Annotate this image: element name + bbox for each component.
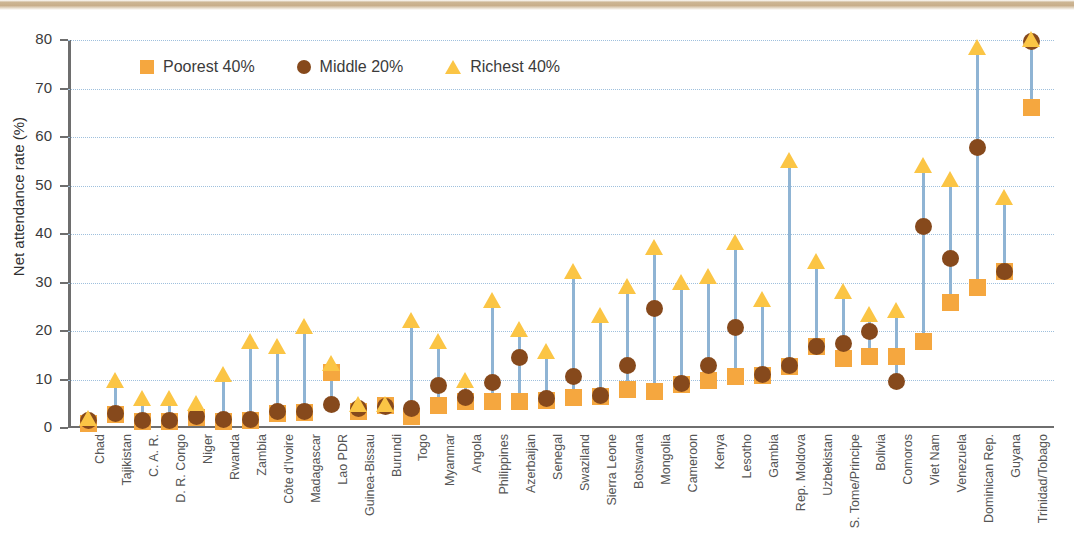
x-tick-label: Senegal xyxy=(551,434,565,480)
data-point-richest xyxy=(726,234,744,250)
x-tick-label: Lao PDR xyxy=(336,434,350,485)
range-connector-line xyxy=(815,261,818,347)
range-connector-line xyxy=(626,286,629,390)
x-tick-label: Swaziland xyxy=(578,434,592,491)
data-point-richest xyxy=(187,395,205,411)
x-tick-label: S. Tome/Principe xyxy=(848,434,862,528)
data-point-poorest xyxy=(835,350,852,367)
y-tick-label: 0 xyxy=(8,418,52,435)
data-point-middle xyxy=(808,338,825,355)
data-point-richest xyxy=(106,372,124,388)
x-tick-label: Comoros xyxy=(901,434,915,485)
y-tick-mark xyxy=(60,379,68,381)
data-point-richest xyxy=(483,292,501,308)
data-point-richest xyxy=(322,355,340,371)
data-point-middle xyxy=(915,218,932,235)
data-point-richest xyxy=(753,291,771,307)
data-point-middle xyxy=(269,403,286,420)
range-connector-line xyxy=(761,299,764,376)
x-tick-label: Sierra Leone xyxy=(605,434,619,506)
data-point-richest xyxy=(160,390,178,406)
range-connector-line xyxy=(976,47,979,288)
x-tick-label: Côte d'Ivoire xyxy=(282,434,296,504)
y-tick-label: 80 xyxy=(8,30,52,47)
x-tick-label: Angola xyxy=(470,434,484,473)
x-tick-label: Rep. Moldova xyxy=(794,434,808,511)
x-tick-label: Dominican Rep. xyxy=(982,434,996,523)
data-point-richest xyxy=(887,302,905,318)
data-point-richest xyxy=(133,390,151,406)
data-point-middle xyxy=(323,396,340,413)
top-decorative-band xyxy=(0,0,1074,10)
data-point-richest xyxy=(268,338,286,354)
data-point-poorest xyxy=(861,348,878,365)
x-tick-label: Madagascar xyxy=(309,434,323,503)
data-point-middle xyxy=(888,373,905,390)
data-point-richest xyxy=(214,366,232,382)
data-point-poorest xyxy=(430,397,447,414)
data-point-richest xyxy=(780,152,798,168)
data-point-richest xyxy=(591,307,609,323)
y-tick-label: 30 xyxy=(8,273,52,290)
data-point-richest xyxy=(537,343,555,359)
data-point-poorest xyxy=(646,383,663,400)
y-tick-mark xyxy=(60,427,68,429)
data-point-middle xyxy=(430,377,447,394)
data-point-richest xyxy=(914,157,932,173)
data-point-middle xyxy=(754,366,771,383)
data-point-richest xyxy=(429,333,447,349)
data-point-poorest xyxy=(727,368,744,385)
x-tick-label: Gambia xyxy=(767,434,781,478)
data-point-richest xyxy=(79,410,97,426)
data-point-middle xyxy=(511,349,528,366)
y-tick-label: 10 xyxy=(8,370,52,387)
x-tick-label: Uzbekistan xyxy=(821,434,835,496)
x-tick-label: Tajikistan xyxy=(120,434,134,485)
x-tick-label: Botswana xyxy=(632,434,646,489)
data-point-middle xyxy=(565,368,582,385)
data-point-richest xyxy=(618,278,636,294)
data-point-middle xyxy=(619,357,636,374)
range-connector-line xyxy=(1003,197,1006,272)
y-tick-label: 60 xyxy=(8,127,52,144)
x-tick-label: Guinea-Bissau xyxy=(363,434,377,516)
data-point-richest xyxy=(672,274,690,290)
x-tick-label: Niger xyxy=(201,434,215,464)
y-tick-mark xyxy=(60,136,68,138)
data-point-richest xyxy=(1022,31,1040,47)
x-tick-label: Venezuela xyxy=(955,434,969,492)
range-connector-line xyxy=(895,310,898,382)
data-point-richest xyxy=(834,283,852,299)
data-point-middle xyxy=(781,357,798,374)
data-point-middle xyxy=(861,323,878,340)
data-point-poorest xyxy=(888,348,905,365)
y-tick-mark xyxy=(60,233,68,235)
data-point-richest xyxy=(941,171,959,187)
x-tick-label: Guyana xyxy=(1009,434,1023,478)
x-tick-label: Burundi xyxy=(390,434,404,477)
range-connector-line xyxy=(949,179,952,303)
data-point-poorest xyxy=(915,333,932,350)
data-point-richest xyxy=(241,333,259,349)
data-point-richest xyxy=(349,396,367,412)
data-point-middle xyxy=(296,403,313,420)
data-point-middle xyxy=(942,250,959,267)
x-tick-label: Mongolia xyxy=(659,434,673,485)
chart-container: Net attendance rate (%) 0102030405060708… xyxy=(0,10,1074,557)
x-tick-label: Lesotho xyxy=(740,434,754,478)
data-point-richest xyxy=(295,318,313,334)
x-tick-label: Bolivia xyxy=(874,434,888,471)
data-point-richest xyxy=(456,372,474,388)
range-connector-line xyxy=(788,160,791,367)
data-point-poorest xyxy=(484,393,501,410)
x-tick-label: D. R. Congo xyxy=(174,434,188,503)
y-tick-mark xyxy=(60,88,68,90)
x-tick-label: Kenya xyxy=(713,434,727,469)
x-tick-label: Zambia xyxy=(255,434,269,476)
data-point-middle xyxy=(835,335,852,352)
data-point-richest xyxy=(699,268,717,284)
data-point-richest xyxy=(376,396,394,412)
x-tick-label: Cameroon xyxy=(686,434,700,492)
data-point-poorest xyxy=(511,393,528,410)
data-point-richest xyxy=(860,306,878,322)
